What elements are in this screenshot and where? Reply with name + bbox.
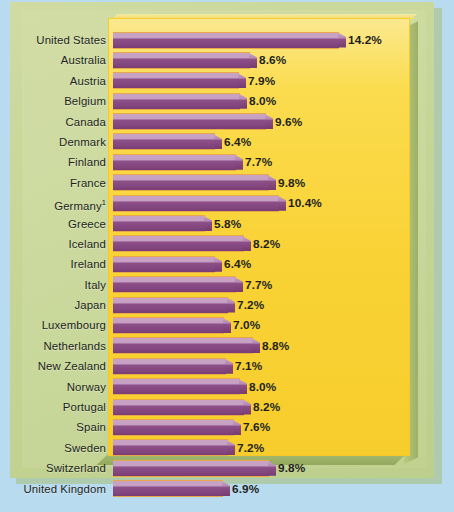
bar <box>113 419 234 436</box>
value-label: 7.6% <box>243 417 270 437</box>
bar <box>113 133 215 150</box>
bar-end-face <box>233 420 241 435</box>
bar-end-face <box>243 400 251 415</box>
bar-row: Portugal8.2% <box>0 397 454 417</box>
bar-end-face <box>249 53 257 68</box>
category-label: Australia <box>61 50 106 70</box>
category-label: Finland <box>68 152 106 172</box>
bar <box>113 93 240 110</box>
bar-row: Japan7.2% <box>0 295 454 315</box>
bar-end-face <box>239 94 247 109</box>
value-label: 8.0% <box>249 91 276 111</box>
bar <box>113 32 339 49</box>
chart-figure: United States14.2%Australia8.6%Austria7.… <box>0 0 454 512</box>
category-label: Sweden <box>64 438 106 458</box>
bar-end-face <box>214 134 222 149</box>
category-label: Portugal <box>63 397 106 417</box>
figure-caption <box>18 497 318 511</box>
bar-body <box>113 480 223 497</box>
category-label: New Zealand <box>38 356 106 376</box>
bar-body <box>113 52 250 69</box>
category-label: Austria <box>70 71 106 91</box>
value-label: 8.0% <box>249 377 276 397</box>
bar-body <box>113 358 226 375</box>
bar-row: Norway8.0% <box>0 377 454 397</box>
value-label: 9.6% <box>275 112 302 132</box>
bar-end-face <box>238 73 246 88</box>
bar <box>113 195 279 212</box>
bar <box>113 174 269 191</box>
bar <box>113 480 223 497</box>
bar <box>113 52 250 69</box>
bar-end-face <box>222 481 230 496</box>
bar-end-face <box>204 216 212 231</box>
bar-body <box>113 460 269 477</box>
bar-row: New Zealand7.1% <box>0 356 454 376</box>
bar-body <box>113 256 215 273</box>
bar-body <box>113 72 239 89</box>
category-label: Belgium <box>64 91 106 111</box>
value-label: 7.7% <box>245 152 272 172</box>
bar-row: France9.8% <box>0 173 454 193</box>
bar-end-face <box>338 33 346 48</box>
bar-row: Switzerland9.8% <box>0 458 454 478</box>
value-label: 8.8% <box>262 336 289 356</box>
bar-body <box>113 113 266 130</box>
category-label: France <box>70 173 106 193</box>
bar-end-face <box>243 236 251 251</box>
bar-end-face <box>223 318 231 333</box>
bar-row: Greece5.8% <box>0 214 454 234</box>
value-label: 7.2% <box>237 438 264 458</box>
value-label: 8.2% <box>253 397 280 417</box>
bar-row: Netherlands8.8% <box>0 336 454 356</box>
bar-row: Australia8.6% <box>0 50 454 70</box>
bar <box>113 215 205 232</box>
bar-row: Ireland6.4% <box>0 254 454 274</box>
value-label: 7.0% <box>233 315 260 335</box>
bar-end-face <box>268 175 276 190</box>
category-label: Norway <box>67 377 106 397</box>
bar-rows: United States14.2%Australia8.6%Austria7.… <box>0 30 454 460</box>
category-label: Greece <box>68 214 106 234</box>
bar-end-face <box>235 277 243 292</box>
bar-body <box>113 276 236 293</box>
value-label: 7.7% <box>245 275 272 295</box>
bar-row: Canada9.6% <box>0 112 454 132</box>
bar <box>113 460 269 477</box>
bar-row: Finland7.7% <box>0 152 454 172</box>
value-label: 10.4% <box>288 193 322 213</box>
category-label: United States <box>36 30 106 50</box>
category-label: Netherlands <box>43 336 106 356</box>
bar-body <box>113 439 228 456</box>
bar <box>113 378 240 395</box>
bar-body <box>113 93 240 110</box>
bar-row: Denmark6.4% <box>0 132 454 152</box>
bar-body <box>113 235 244 252</box>
bar-end-face <box>225 359 233 374</box>
bar-body <box>113 337 253 354</box>
bar-body <box>113 297 228 314</box>
bar <box>113 113 266 130</box>
value-label: 9.8% <box>278 173 305 193</box>
value-label: 5.8% <box>214 214 241 234</box>
bar-body <box>113 32 339 49</box>
bar-row: United Kingdom6.9% <box>0 479 454 499</box>
bar-body <box>113 399 244 416</box>
bar <box>113 317 224 334</box>
category-label: Ireland <box>70 254 106 274</box>
bar-end-face <box>268 461 276 476</box>
bar-end-face <box>239 379 247 394</box>
bar-row: Iceland8.2% <box>0 234 454 254</box>
bar-row: Italy7.7% <box>0 275 454 295</box>
bar <box>113 276 236 293</box>
value-label: 6.9% <box>232 479 259 499</box>
value-label: 9.8% <box>278 458 305 478</box>
bar-row: Sweden7.2% <box>0 438 454 458</box>
category-label: Iceland <box>69 234 106 254</box>
category-label: Italy <box>85 275 106 295</box>
category-label: Canada <box>65 112 106 132</box>
bar-body <box>113 378 240 395</box>
bar <box>113 297 228 314</box>
bar-row: Spain7.6% <box>0 417 454 437</box>
value-label: 7.2% <box>237 295 264 315</box>
